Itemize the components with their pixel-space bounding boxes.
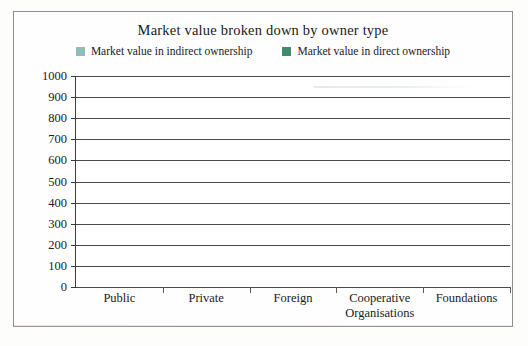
gridline bbox=[76, 287, 510, 288]
y-axis-tick-label: 300 bbox=[48, 216, 67, 231]
category-divider bbox=[510, 287, 511, 293]
y-axis-tick-label: 100 bbox=[48, 258, 67, 273]
legend-item-indirect-ownership: Market value in indirect ownership bbox=[76, 45, 253, 57]
bar-group[interactable] bbox=[273, 76, 313, 287]
chart-frame: Market value broken down by owner type M… bbox=[13, 11, 513, 327]
bar-group[interactable] bbox=[186, 76, 226, 287]
y-axis-tick-label: 0 bbox=[61, 280, 67, 295]
plot-area: 01002003004005006007008009001000 bbox=[76, 76, 510, 287]
legend-swatch-indirect-icon bbox=[76, 47, 85, 56]
scanned-page: Market value broken down by owner type M… bbox=[0, 0, 528, 346]
y-axis-tick-label: 500 bbox=[48, 174, 67, 189]
chart-legend: Market value in indirect ownership Marke… bbox=[14, 45, 512, 57]
bar-group[interactable] bbox=[99, 76, 139, 287]
y-axis-tick-label: 600 bbox=[48, 153, 67, 168]
y-axis-tick-label: 1000 bbox=[42, 69, 67, 84]
x-axis-label: Public bbox=[76, 291, 163, 306]
bar-group[interactable] bbox=[447, 76, 487, 287]
x-axis-label: Foreign bbox=[250, 291, 337, 306]
x-axis-label: CooperativeOrganisations bbox=[336, 291, 423, 321]
y-axis-tick-label: 700 bbox=[48, 132, 67, 147]
legend-swatch-direct-icon bbox=[282, 47, 291, 56]
legend-label-direct: Market value in direct ownership bbox=[297, 45, 450, 57]
y-axis-tick bbox=[71, 287, 76, 288]
x-axis-label: Private bbox=[163, 291, 250, 306]
legend-label-indirect: Market value in indirect ownership bbox=[91, 45, 253, 57]
legend-item-direct-ownership: Market value in direct ownership bbox=[282, 45, 450, 57]
x-axis-tick-labels: PublicPrivateForeignCooperativeOrganisat… bbox=[76, 291, 510, 331]
x-axis-label: Foundations bbox=[423, 291, 510, 306]
y-axis-tick-label: 400 bbox=[48, 195, 67, 210]
y-axis-tick-label: 200 bbox=[48, 237, 67, 252]
bar-group[interactable] bbox=[360, 76, 400, 287]
chart-title: Market value broken down by owner type bbox=[14, 22, 512, 39]
y-axis-tick-label: 900 bbox=[48, 90, 67, 105]
bars-layer bbox=[76, 76, 510, 287]
y-axis-tick-label: 800 bbox=[48, 111, 67, 126]
